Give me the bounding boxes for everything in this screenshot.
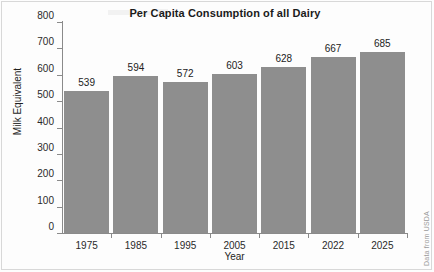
bar <box>311 57 356 233</box>
y-axis-tick-label: 300 <box>18 142 54 153</box>
bar-value-label: 685 <box>357 38 407 49</box>
x-axis-line <box>62 233 407 234</box>
bar <box>163 82 208 233</box>
x-axis-title: Year <box>62 251 407 262</box>
y-axis-tick-label: 200 <box>18 168 54 179</box>
y-axis-tick-label: 800 <box>18 10 54 21</box>
bar-value-label: 539 <box>62 77 112 88</box>
x-axis-tick-label: 1995 <box>160 240 210 251</box>
bar-value-label: 603 <box>210 60 260 71</box>
y-axis-tick <box>57 101 62 102</box>
y-axis-tick <box>57 48 62 49</box>
bar <box>261 67 306 233</box>
y-axis-tick-label: 400 <box>18 116 54 127</box>
y-axis-tick <box>57 75 62 76</box>
x-axis-tick <box>210 233 211 238</box>
y-axis-tick <box>57 128 62 129</box>
x-axis-tick <box>161 233 162 238</box>
bar-value-label: 628 <box>259 53 309 64</box>
bar <box>64 91 109 233</box>
bar <box>360 52 405 233</box>
chart-figure: Per Capita Consumption of all Dairy Milk… <box>0 0 434 272</box>
y-axis-tick <box>57 154 62 155</box>
y-axis-tick-label: 600 <box>18 63 54 74</box>
source-note: Data from USDA <box>423 211 430 266</box>
x-axis-tick-label: 1975 <box>62 240 112 251</box>
y-axis-line <box>62 21 63 234</box>
x-axis-tick-label: 2025 <box>357 240 407 251</box>
bar-value-label: 572 <box>160 68 210 79</box>
y-axis-tick <box>57 22 62 23</box>
y-axis-tick <box>57 207 62 208</box>
bar-value-label: 594 <box>111 62 161 73</box>
bar <box>113 76 158 233</box>
x-axis-tick <box>259 233 260 238</box>
x-axis-tick <box>308 233 309 238</box>
x-axis-tick <box>111 233 112 238</box>
x-axis-tick-label: 2015 <box>259 240 309 251</box>
bar <box>212 74 257 233</box>
bar-value-label: 667 <box>308 43 358 54</box>
y-axis-tick-label: 0 <box>18 221 54 232</box>
y-axis-tick <box>57 180 62 181</box>
x-axis-tick-label: 2005 <box>210 240 260 251</box>
y-axis-tick-label: 100 <box>18 195 54 206</box>
chart-title: Per Capita Consumption of all Dairy <box>60 7 390 19</box>
y-axis-tick-label: 500 <box>18 89 54 100</box>
x-axis-tick <box>407 233 408 238</box>
y-axis-tick <box>57 233 62 234</box>
y-axis-tick-label: 700 <box>18 36 54 47</box>
x-axis-tick-label: 2022 <box>308 240 358 251</box>
x-axis-tick-label: 1985 <box>111 240 161 251</box>
x-axis-tick <box>358 233 359 238</box>
